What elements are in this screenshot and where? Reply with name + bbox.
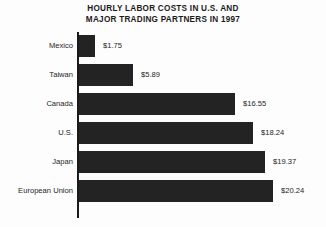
bar-category-label: Taiwan xyxy=(49,64,73,86)
bar-category-label: U.S. xyxy=(58,122,73,144)
bar-japan xyxy=(79,151,265,173)
bar-value-label: $18.24 xyxy=(261,122,284,144)
bar-value-label: $20.24 xyxy=(281,180,304,202)
chart-title-line-2: MAJOR TRADING PARTNERS IN 1997 xyxy=(0,15,326,26)
bar-european-union xyxy=(79,180,273,202)
bar-category-label: Japan xyxy=(52,151,73,173)
bar-row: Canada $16.55 xyxy=(0,93,326,115)
bar-value-label: $19.37 xyxy=(273,151,296,173)
bar-category-label: Mexico xyxy=(49,35,73,57)
bar-row: Mexico $1.75 xyxy=(0,35,326,57)
chart-title: HOURLY LABOR COSTS IN U.S. AND MAJOR TRA… xyxy=(0,4,326,25)
bar-mexico xyxy=(79,35,95,57)
bar-row: European Union $20.24 xyxy=(0,180,326,202)
bar-value-label: $16.55 xyxy=(243,93,266,115)
chart-title-line-1: HOURLY LABOR COSTS IN U.S. AND xyxy=(0,4,326,15)
bar-category-label: Canada xyxy=(46,93,73,115)
plot-area: Mexico $1.75 Taiwan $5.89 Canada $16.55 … xyxy=(0,31,326,221)
bar-value-label: $1.75 xyxy=(103,35,122,57)
bar-canada xyxy=(79,93,235,115)
bar-value-label: $5.89 xyxy=(141,64,160,86)
bar-category-label: European Union xyxy=(18,180,73,202)
bar-row: Taiwan $5.89 xyxy=(0,64,326,86)
bar-taiwan xyxy=(79,64,133,86)
bar-chart-figure: HOURLY LABOR COSTS IN U.S. AND MAJOR TRA… xyxy=(0,0,326,227)
bar-us xyxy=(79,122,253,144)
bar-row: U.S. $18.24 xyxy=(0,122,326,144)
bar-row: Japan $19.37 xyxy=(0,151,326,173)
